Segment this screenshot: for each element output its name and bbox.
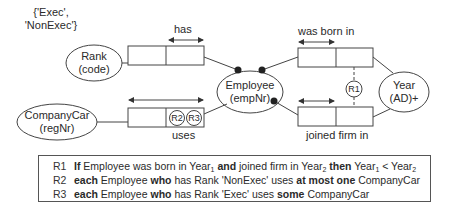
- employee-name: Employee: [217, 79, 283, 92]
- born-reading: was born in: [298, 25, 354, 38]
- uses-reading: uses: [172, 129, 195, 142]
- rule-id: R1: [53, 159, 74, 173]
- uses-to-employee-line: [204, 104, 227, 114]
- companycar-entity: CompanyCar (regNr): [17, 109, 97, 135]
- value-line-1: {'Exec',: [16, 6, 86, 19]
- employee-entity: Employee (empNr): [217, 79, 283, 105]
- rule-id: R2: [53, 173, 74, 187]
- employee-to-born-line: [262, 57, 298, 70]
- has-reading: has: [174, 23, 192, 36]
- rule-r3: R3each Employee who has Rank 'Exec' uses…: [53, 187, 430, 201]
- rank-entity: Rank (code): [66, 50, 122, 76]
- rules-box: R1If Employee was born in Year1 and join…: [38, 155, 431, 202]
- joined-reading: joined firm in: [306, 129, 368, 142]
- companycar-ref: (regNr): [17, 122, 97, 135]
- rank-ref: (code): [66, 63, 122, 76]
- value-line-2: 'NonExec'}: [16, 19, 86, 32]
- year-entity: Year (AD)+: [379, 79, 429, 105]
- mandatory-dot-born: [259, 67, 266, 74]
- joined-to-year-line: [373, 109, 390, 117]
- rule-r2: R2each Employee who has Rank 'NonExec' u…: [53, 173, 430, 187]
- mandatory-dot-has: [235, 67, 242, 74]
- companycar-name: CompanyCar: [17, 109, 97, 122]
- born-to-year-line: [373, 57, 393, 73]
- year-ref: (AD)+: [379, 92, 429, 105]
- year-name: Year: [379, 79, 429, 92]
- rank-name: Rank: [66, 50, 122, 63]
- value-constraint: {'Exec', 'NonExec'}: [16, 6, 86, 32]
- employee-ref: (empNr): [217, 92, 283, 105]
- r1-label: R1: [346, 83, 362, 96]
- r2-label: R2: [169, 112, 185, 125]
- rule-id: R3: [53, 187, 74, 201]
- rule-r1: R1If Employee was born in Year1 and join…: [53, 159, 430, 173]
- has-to-employee-line: [204, 57, 238, 70]
- r3-label: R3: [186, 112, 202, 125]
